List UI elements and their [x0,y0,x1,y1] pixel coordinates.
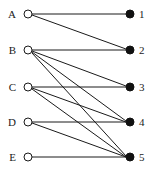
edge-C-4 [32,88,126,122]
node-A [24,10,32,18]
node-B [24,46,32,54]
node-label-E: E [9,151,16,163]
edges-group [32,14,126,157]
node-label-A: A [8,8,16,20]
graph-canvas: ABCDE12345 [0,0,158,170]
node-4 [126,118,134,126]
edge-C-5 [32,89,126,157]
right-nodes-group [126,10,134,161]
node-label-2: 2 [139,44,145,56]
node-label-4: 4 [139,116,145,128]
node-label-D: D [8,116,16,128]
node-label-5: 5 [139,151,145,163]
left-nodes-group [24,10,32,161]
node-1 [126,10,134,18]
node-2 [126,46,134,54]
node-3 [126,83,134,91]
node-5 [126,153,134,161]
node-D [24,118,32,126]
bipartite-graph-figure: ABCDE12345 [0,0,158,170]
node-label-C: C [9,81,16,93]
edge-A-2 [32,15,126,49]
node-label-B: B [9,44,16,56]
node-label-3: 3 [139,81,145,93]
node-C [24,83,32,91]
node-label-1: 1 [139,8,145,20]
node-E [24,153,32,161]
